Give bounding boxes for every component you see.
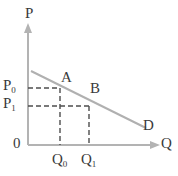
point-label-b: B xyxy=(90,81,100,96)
price-tick-label-p0: P0 xyxy=(3,78,16,93)
origin-label: 0 xyxy=(13,136,21,151)
quantity-axis-arrow-icon xyxy=(150,141,160,149)
demand-curve-figure: P Q 0 P0 P1 Q0 Q1 A B D xyxy=(0,0,178,176)
quantity-axis-label: Q xyxy=(161,136,172,151)
point-label-a: A xyxy=(61,70,72,85)
quantity-tick-label-q0: Q0 xyxy=(52,152,67,167)
quantity-tick-base-q1: Q xyxy=(81,151,92,167)
quantity-axis xyxy=(28,141,160,149)
demand-curve-label: D xyxy=(143,118,154,133)
price-axis-arrow-icon xyxy=(24,23,32,33)
quantity-tick-sub-q0: 0 xyxy=(63,159,68,169)
price-axis-label: P xyxy=(25,6,33,21)
quantity-tick-base-q0: Q xyxy=(52,151,63,167)
quantity-tick-label-q1: Q1 xyxy=(81,152,96,167)
demand-curve-line xyxy=(31,71,146,128)
price-axis xyxy=(24,23,32,145)
price-tick-label-p1: P1 xyxy=(3,96,16,111)
quantity-tick-sub-q1: 1 xyxy=(92,159,97,169)
price-tick-sub-p0: 0 xyxy=(11,85,16,95)
price-tick-sub-p1: 1 xyxy=(11,103,16,113)
figure-canvas xyxy=(0,0,178,176)
